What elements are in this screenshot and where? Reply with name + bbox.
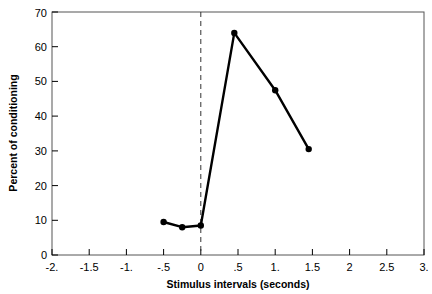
y-tick-label: 30 (35, 145, 47, 157)
chart-page: 0 10 20 30 40 50 60 70 -2. -1.5 (0, 0, 432, 294)
x-tick-label: -.5 (157, 261, 170, 273)
y-tick-labels: 0 10 20 30 40 50 60 70 (35, 7, 47, 262)
x-tick-labels: -2. -1.5 -1. -.5 0 .5 1. 1.5 2 2.5 3. (46, 261, 429, 273)
data-point (306, 146, 312, 152)
data-point (272, 87, 278, 93)
line-chart: 0 10 20 30 40 50 60 70 -2. -1.5 (0, 0, 432, 294)
y-tick-label: 10 (35, 214, 47, 226)
y-tick-label: 20 (35, 180, 47, 192)
y-tick-label: 0 (41, 249, 47, 261)
x-tick-label: 3. (419, 261, 428, 273)
x-tick-label: -1.5 (80, 261, 99, 273)
data-point (198, 222, 204, 228)
x-axis-title: Stimulus intervals (seconds) (167, 278, 310, 290)
data-point (231, 30, 237, 36)
x-tick-label: -1. (120, 261, 133, 273)
y-tick-label: 60 (35, 41, 47, 53)
x-tick-label: -2. (46, 261, 59, 273)
plot-frame (52, 12, 424, 255)
y-axis-title: Percent of conditioning (7, 74, 19, 191)
x-tick-label: .5 (233, 261, 242, 273)
y-tick-label: 50 (35, 75, 47, 87)
y-tick-label: 40 (35, 110, 47, 122)
data-point (160, 219, 166, 225)
x-tick-label: 1.5 (305, 261, 320, 273)
data-point (179, 224, 185, 230)
x-tick-label: 0 (198, 261, 204, 273)
x-tick-label: 2.5 (379, 261, 394, 273)
x-tick-label: 2 (347, 261, 353, 273)
y-tick-label: 70 (35, 7, 47, 19)
x-tick-label: 1. (271, 261, 280, 273)
